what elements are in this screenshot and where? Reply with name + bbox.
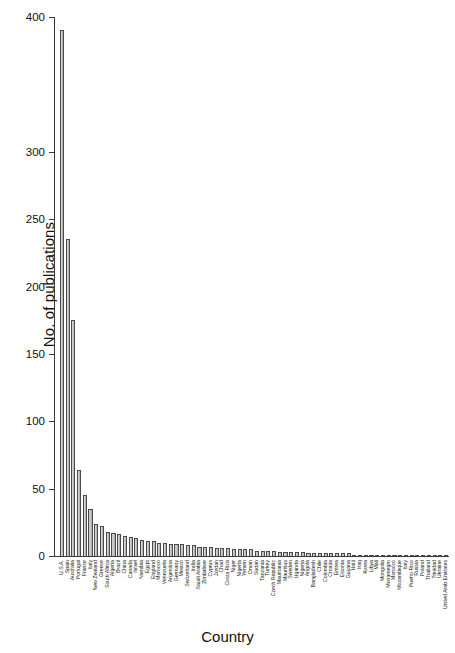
bar bbox=[209, 547, 213, 556]
bar bbox=[215, 548, 219, 556]
bar bbox=[83, 495, 87, 556]
bar bbox=[295, 552, 299, 556]
bar bbox=[249, 549, 253, 556]
bar bbox=[369, 555, 373, 556]
bar bbox=[312, 553, 316, 556]
bar bbox=[392, 555, 396, 556]
bar bbox=[421, 555, 425, 556]
bar bbox=[163, 543, 167, 556]
bar bbox=[174, 544, 178, 556]
bar bbox=[140, 540, 144, 556]
bar bbox=[117, 534, 121, 556]
y-axis-tick-label: 250 bbox=[26, 213, 45, 225]
publications-by-country-chart: No. of publications 05010015020025030040… bbox=[0, 0, 455, 653]
bar bbox=[123, 536, 127, 556]
bar bbox=[415, 555, 419, 556]
y-axis-tick-label: 100 bbox=[26, 415, 45, 427]
bar bbox=[306, 553, 310, 556]
bar bbox=[111, 533, 115, 556]
bar bbox=[238, 549, 242, 556]
y-axis-tick-mark bbox=[49, 421, 54, 422]
bar bbox=[341, 553, 345, 556]
x-axis-label: Country bbox=[0, 628, 455, 645]
bar bbox=[266, 551, 270, 556]
y-axis-tick-mark bbox=[49, 556, 54, 557]
bar bbox=[192, 545, 196, 556]
y-axis-tick-label: 200 bbox=[26, 281, 45, 293]
bar bbox=[261, 551, 265, 556]
bar bbox=[100, 526, 104, 556]
x-axis-tick-label: United Arab Emirates bbox=[443, 560, 448, 609]
bar bbox=[438, 555, 442, 556]
bar bbox=[352, 555, 356, 556]
bar bbox=[427, 555, 431, 556]
bar bbox=[60, 30, 64, 556]
y-axis-tick-label: 50 bbox=[32, 483, 45, 495]
bar bbox=[77, 470, 81, 556]
bar bbox=[301, 552, 305, 556]
bar bbox=[197, 547, 201, 556]
bar bbox=[278, 552, 282, 556]
y-axis-tick-label: 400 bbox=[26, 11, 45, 23]
y-axis-tick-mark bbox=[49, 152, 54, 153]
bar bbox=[381, 555, 385, 556]
bar bbox=[272, 551, 276, 556]
bar bbox=[444, 555, 448, 556]
bar bbox=[335, 553, 339, 556]
bar bbox=[410, 555, 414, 556]
plot-area: 050100150200250300400 bbox=[59, 12, 449, 556]
bar bbox=[203, 547, 207, 556]
bar bbox=[232, 549, 236, 556]
bar bbox=[324, 553, 328, 556]
bar bbox=[186, 545, 190, 556]
bar bbox=[433, 555, 437, 556]
bar-slot bbox=[443, 12, 449, 556]
y-axis-tick-mark bbox=[49, 354, 54, 355]
bar bbox=[129, 537, 133, 556]
y-axis-line bbox=[54, 17, 55, 556]
y-axis-tick-label: 150 bbox=[26, 348, 45, 360]
bar bbox=[71, 320, 75, 556]
bar bbox=[318, 553, 322, 556]
bar bbox=[255, 551, 259, 556]
bar bbox=[66, 239, 70, 556]
bar bbox=[152, 541, 156, 556]
x-axis-tick-labels: U.S.A.SpainAustraliaPortugalFranceItalyN… bbox=[59, 558, 449, 628]
bar bbox=[226, 548, 230, 556]
bar bbox=[88, 509, 92, 556]
bar bbox=[146, 541, 150, 556]
bar-series bbox=[59, 12, 449, 556]
y-axis-tick-mark bbox=[49, 219, 54, 220]
y-axis-tick-mark bbox=[49, 489, 54, 490]
bar bbox=[404, 555, 408, 556]
bar bbox=[347, 553, 351, 556]
x-axis-line bbox=[54, 556, 449, 557]
y-axis-tick-label: 0 bbox=[39, 550, 45, 562]
bar bbox=[398, 555, 402, 556]
bar bbox=[387, 555, 391, 556]
y-axis-tick-mark bbox=[49, 17, 54, 18]
bar bbox=[169, 544, 173, 556]
y-axis-tick-label: 300 bbox=[26, 146, 45, 158]
y-axis-tick-mark bbox=[49, 287, 54, 288]
bar bbox=[283, 552, 287, 556]
bar bbox=[134, 538, 138, 556]
bar bbox=[329, 553, 333, 556]
bar bbox=[358, 555, 362, 556]
bar bbox=[180, 544, 184, 556]
bar bbox=[220, 548, 224, 556]
x-axis-tick-slot: United Arab Emirates bbox=[443, 558, 449, 628]
bar bbox=[243, 549, 247, 556]
bar bbox=[375, 555, 379, 556]
bar bbox=[364, 555, 368, 556]
bar bbox=[94, 524, 98, 556]
bar bbox=[106, 532, 110, 556]
bar bbox=[157, 543, 161, 556]
bar bbox=[289, 552, 293, 556]
